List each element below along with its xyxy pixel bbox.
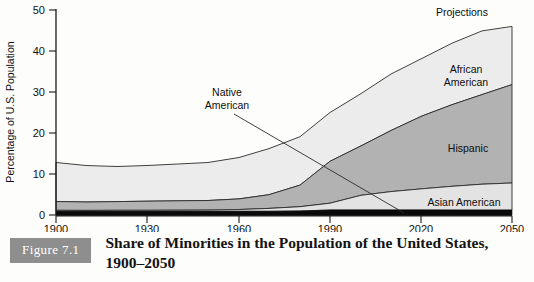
y-tick-30: 30 [33, 86, 45, 98]
label-hispanic: Hispanic [448, 142, 488, 154]
caption-line-2: 1900–2050 [105, 253, 488, 273]
y-tick-40: 40 [33, 45, 45, 57]
label-african-american-line2: American [444, 76, 489, 88]
x-tick-1930: 1930 [135, 223, 159, 232]
label-native-american-line2: American [205, 99, 250, 111]
label-projections: Projections [436, 6, 488, 18]
x-tick-1960: 1960 [227, 223, 251, 232]
figure-caption: Share of Minorities in the Population of… [105, 233, 488, 273]
y-tick-0: 0 [39, 209, 45, 221]
y-axis-title: Percentage of U.S. Population [4, 41, 16, 182]
label-native-american: Native [212, 86, 242, 98]
x-tick-2020: 2020 [409, 223, 433, 232]
y-tick-10: 10 [33, 168, 45, 180]
label-african-american: African [450, 63, 483, 75]
figure-container: 0 10 20 30 40 50 1900 1930 1960 1990 202… [0, 0, 534, 282]
x-tick-1990: 1990 [318, 223, 342, 232]
figure-number-badge: Figure 7.1 [10, 238, 91, 263]
label-asian-american: Asian American [428, 196, 501, 208]
x-axis-ticks [56, 216, 512, 223]
figure-caption-row: Figure 7.1 Share of Minorities in the Po… [0, 232, 534, 282]
y-axis-ticks [49, 10, 56, 215]
y-tick-20: 20 [33, 127, 45, 139]
stacked-area-chart: 0 10 20 30 40 50 1900 1930 1960 1990 202… [0, 0, 534, 232]
x-tick-2050: 2050 [500, 223, 524, 232]
y-tick-50: 50 [33, 4, 45, 16]
x-tick-1900: 1900 [44, 223, 68, 232]
caption-line-1: Share of Minorities in the Population of… [105, 234, 488, 251]
